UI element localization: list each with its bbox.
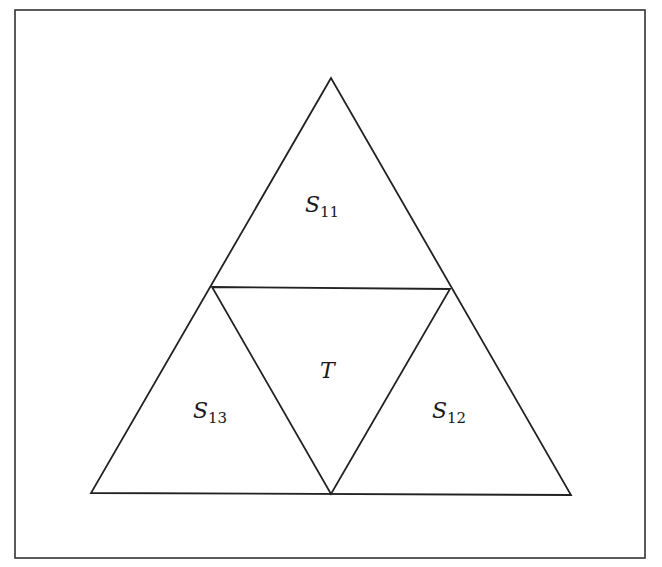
figure-frame: [15, 10, 645, 558]
label-s12: S12: [432, 398, 466, 427]
sierpinski-subdivision-diagram: S11 T S13 S12: [0, 0, 662, 567]
outer-triangle: [91, 78, 571, 495]
label-s11: S11: [305, 192, 339, 221]
label-t: T: [320, 358, 337, 383]
label-s13: S13: [193, 398, 227, 427]
inner-triangle-T: [212, 287, 450, 494]
